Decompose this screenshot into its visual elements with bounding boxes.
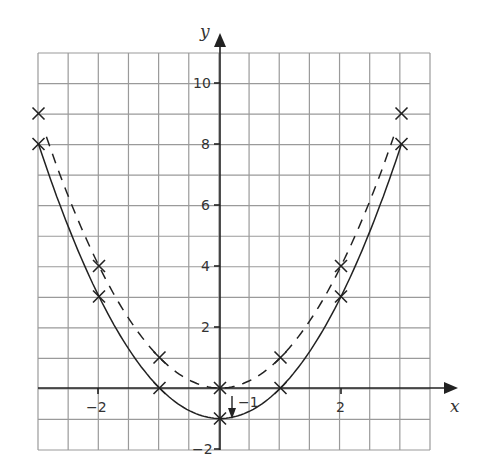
x-tick-label: −2 xyxy=(86,399,107,415)
x-axis-label: x xyxy=(450,396,460,416)
y-ticks: 10 8 6 4 2 −2 xyxy=(192,75,220,457)
x-tick-label: 2 xyxy=(336,399,345,415)
y-tick-label: 2 xyxy=(201,319,210,335)
translation-arrow-icon xyxy=(228,396,236,419)
translation-label: −1 xyxy=(238,394,259,410)
y-tick-label: 10 xyxy=(193,75,211,91)
grid xyxy=(38,53,430,450)
y-axis-label: y xyxy=(199,21,210,41)
y-tick-label: 6 xyxy=(201,197,210,213)
parabola-graph: x y 10 8 6 4 2 −2 −2 2 −1 xyxy=(0,0,485,475)
x-axis-arrow-icon xyxy=(444,382,458,394)
y-tick-label: −2 xyxy=(192,441,213,457)
y-tick-label: 4 xyxy=(201,258,210,274)
y-axis-arrow-icon xyxy=(214,33,226,47)
y-tick-label: 8 xyxy=(201,136,210,152)
